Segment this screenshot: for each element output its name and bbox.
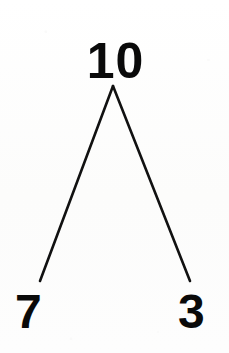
- number-bond-figure: 10 7 3: [0, 0, 229, 353]
- whole-number-label: 10: [1, 36, 229, 86]
- part-left-number-label: 7: [15, 288, 42, 336]
- branch-line-right: [113, 86, 190, 281]
- part-right-number-label: 3: [178, 288, 205, 336]
- branch-line-left: [40, 86, 113, 281]
